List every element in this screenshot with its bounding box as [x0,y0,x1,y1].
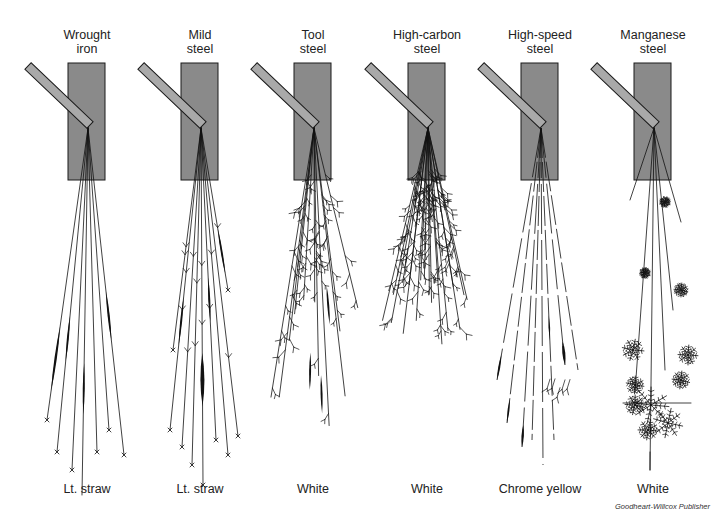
grinder-and-sparks-0 [25,63,126,495]
publisher-credit: Goodheart-Willcox Publisher [615,502,710,511]
spark-stream [380,128,472,344]
grinder-and-sparks-4 [478,63,578,465]
grinder-and-sparks-2 [251,63,358,426]
spark-stream [45,128,126,495]
spark-pattern-illustration [0,0,718,525]
grinder-and-sparks-5 [591,63,698,470]
spark-stream [271,128,358,426]
grinder-and-sparks-1 [138,63,240,487]
spark-stream [168,128,240,487]
grinder-and-sparks-3 [365,63,472,344]
